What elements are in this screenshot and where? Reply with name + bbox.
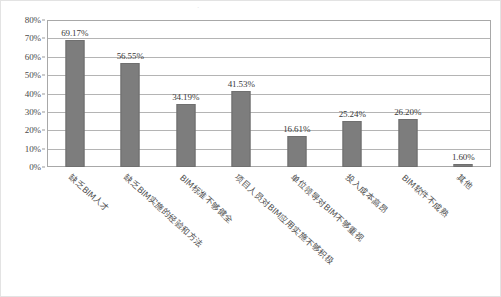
bar[interactable]	[343, 121, 362, 167]
x-tick-label: 其他	[455, 171, 476, 192]
x-label-slot: 单位领导对BIM不够重视	[269, 169, 325, 294]
y-tick-label: 50%	[25, 70, 41, 80]
bars-layer: 69.17%56.55%34.19%41.53%16.61%25.24%26.2…	[47, 20, 491, 167]
y-tick-label: 80%	[25, 15, 41, 25]
bar-value-label: 41.53%	[228, 79, 255, 89]
bar-group[interactable]: 41.53%	[214, 20, 270, 167]
y-tick-label: 0%	[29, 162, 41, 172]
y-tick-mark	[42, 56, 45, 57]
bar-value-label: 69.17%	[61, 28, 88, 38]
y-tick-mark	[42, 167, 45, 168]
bar[interactable]	[65, 40, 84, 167]
x-label-slot: 其他	[436, 169, 492, 294]
x-label-slot: 项目人员对BIM应用实施不够积极	[214, 169, 270, 294]
bar-value-label: 1.60%	[452, 152, 475, 162]
bar-group[interactable]: 16.61%	[269, 20, 325, 167]
y-tick-mark	[42, 38, 45, 39]
y-tick-mark	[42, 20, 45, 21]
x-axis-labels: 缺乏BIM人才缺乏BIM实施的经验和方法BIM标准不够健全项目人员对BIM应用实…	[47, 169, 491, 294]
chart-figure: · 80%70%60%50%40%30%20%10%0% 69.17%56.55…	[0, 0, 501, 297]
bar[interactable]	[121, 63, 140, 167]
bar-group[interactable]: 1.60%	[436, 20, 492, 167]
bar-group[interactable]: 26.20%	[380, 20, 436, 167]
bar[interactable]	[232, 91, 251, 167]
bar-group[interactable]: 25.24%	[325, 20, 381, 167]
bar-value-label: 56.55%	[117, 51, 144, 61]
x-label-slot: BIM软件不成熟	[380, 169, 436, 294]
bar[interactable]	[398, 119, 417, 167]
x-label-slot: 缺乏BIM实施的经验和方法	[103, 169, 159, 294]
x-label-slot: BIM标准不够健全	[158, 169, 214, 294]
y-tick-label: 20%	[25, 125, 41, 135]
x-label-slot: 缺乏BIM人才	[47, 169, 103, 294]
bar[interactable]	[454, 164, 473, 167]
bar-value-label: 26.20%	[394, 107, 421, 117]
y-tick-label: 40%	[25, 89, 41, 99]
bar-value-label: 34.19%	[172, 92, 199, 102]
x-label-slot: 投入成本高昂	[325, 169, 381, 294]
bar[interactable]	[287, 136, 306, 167]
y-axis: 80%70%60%50%40%30%20%10%0%	[1, 20, 45, 167]
bar-group[interactable]: 34.19%	[158, 20, 214, 167]
bar-value-label: 16.61%	[283, 124, 310, 134]
y-tick-label: 30%	[25, 107, 41, 117]
bar-group[interactable]: 69.17%	[47, 20, 103, 167]
bar[interactable]	[176, 104, 195, 167]
y-tick-mark	[42, 130, 45, 131]
y-tick-label: 70%	[25, 33, 41, 43]
y-tick-mark	[42, 148, 45, 149]
y-tick-mark	[42, 111, 45, 112]
y-tick-mark	[42, 93, 45, 94]
y-tick-label: 60%	[25, 52, 41, 62]
y-tick-label: 10%	[25, 144, 41, 154]
page-mark: ·	[197, 4, 199, 12]
y-tick-mark	[42, 75, 45, 76]
bar-value-label: 25.24%	[339, 109, 366, 119]
bar-group[interactable]: 56.55%	[103, 20, 159, 167]
